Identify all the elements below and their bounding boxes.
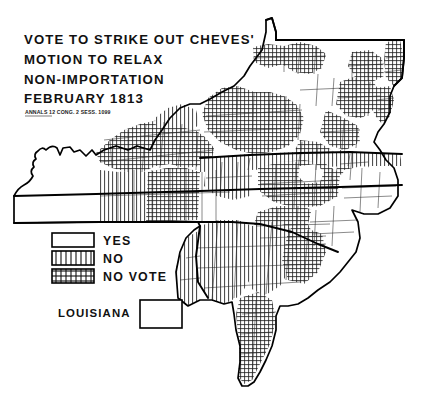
- title-line-2: MOTION TO RELAX: [24, 52, 163, 67]
- louisiana-label: LOUISIANA: [58, 307, 131, 319]
- legend-swatch-no: [52, 251, 94, 265]
- legend-label-no-vote: NO VOTE: [103, 270, 167, 284]
- title-line-4: FEBRUARY 1813: [24, 91, 144, 106]
- legend-swatch-no-vote: [52, 269, 94, 283]
- legend-label-no: NO: [103, 252, 124, 266]
- title-line-1: VOTE TO STRIKE OUT CHEVES': [24, 32, 255, 47]
- region-tennessee-central: [146, 168, 200, 222]
- source-citation: ANNALS 12 CONG. 2 SESS. 1099: [25, 109, 111, 115]
- legend-label-yes: YES: [103, 234, 131, 248]
- legend-swatch-yes: [52, 233, 94, 247]
- map-figure: VOTE TO STRIKE OUT CHEVES' MOTION TO REL…: [0, 0, 441, 398]
- vote-map-svg: VOTE TO STRIKE OUT CHEVES' MOTION TO REL…: [0, 0, 441, 398]
- louisiana-swatch: [140, 300, 182, 328]
- title-line-3: NON-IMPORTATION: [24, 72, 165, 87]
